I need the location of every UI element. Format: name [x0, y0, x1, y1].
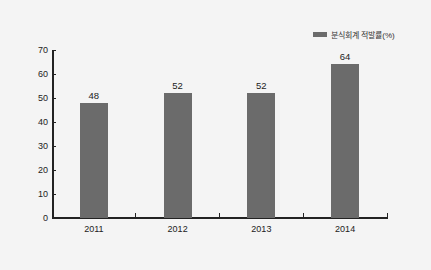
y-tick-label: 50 [28, 93, 48, 103]
x-tick [135, 213, 136, 218]
y-tick [52, 194, 56, 195]
bar-value-label: 48 [74, 90, 114, 101]
y-tick [52, 74, 56, 75]
bar-chart: 분식회계 적발률(%) 010203040506070 482011522012… [0, 0, 431, 270]
legend-label: 분식회계 적발률(%) [331, 29, 395, 40]
x-tick [387, 213, 388, 218]
y-tick [52, 98, 56, 99]
bar-2012 [164, 93, 192, 218]
bar-2011 [80, 103, 108, 218]
bar-value-label: 64 [325, 51, 365, 62]
y-tick-label: 60 [28, 69, 48, 79]
x-tick-label: 2013 [241, 224, 281, 234]
y-tick [52, 122, 56, 123]
y-tick-label: 40 [28, 117, 48, 127]
x-tick-label: 2011 [74, 224, 114, 234]
y-tick-label: 30 [28, 141, 48, 151]
y-tick [52, 170, 56, 171]
y-tick-label: 70 [28, 45, 48, 55]
x-tick [303, 213, 304, 218]
bar-2013 [247, 93, 275, 218]
legend-swatch [313, 32, 327, 37]
x-tick [219, 213, 220, 218]
y-tick-label: 10 [28, 189, 48, 199]
y-tick [52, 50, 56, 51]
y-tick-label: 0 [28, 213, 48, 223]
bar-2014 [331, 64, 359, 218]
bar-value-label: 52 [158, 80, 198, 91]
y-tick-label: 20 [28, 165, 48, 175]
bar-value-label: 52 [241, 80, 281, 91]
legend: 분식회계 적발률(%) [313, 29, 395, 40]
y-axis [52, 50, 54, 218]
y-tick [52, 146, 56, 147]
x-tick-label: 2012 [158, 224, 198, 234]
x-tick-label: 2014 [325, 224, 365, 234]
